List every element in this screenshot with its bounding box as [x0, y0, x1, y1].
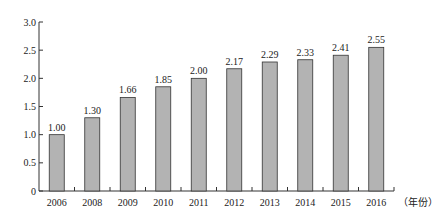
x-tick-label: 2006	[47, 197, 67, 208]
x-tick-label: 2015	[331, 197, 351, 208]
bar-2009	[120, 97, 135, 191]
value-label: 2.17	[226, 56, 244, 67]
x-tick-label: 2016	[366, 197, 386, 208]
y-tick-label: 2.5	[24, 45, 37, 56]
y-tick-label: 1.0	[24, 129, 37, 140]
bar-2010	[156, 87, 171, 191]
x-tick-label: 2010	[153, 197, 173, 208]
y-tick-label: 2.0	[24, 73, 37, 84]
bar-chart: 00.51.01.52.02.53.01.0020061.3020081.662…	[0, 0, 447, 223]
value-label: 2.29	[261, 49, 279, 60]
value-label: 1.00	[48, 122, 66, 133]
value-label: 2.33	[297, 47, 315, 58]
bar-2008	[85, 118, 100, 191]
y-tick-label: 0.5	[24, 157, 37, 168]
value-label: 1.30	[84, 105, 102, 116]
bar-2015	[333, 55, 348, 191]
bar-2016	[369, 47, 384, 191]
bar-2014	[298, 60, 313, 191]
x-tick-label: 2011	[189, 197, 209, 208]
x-tick-label: 2014	[295, 197, 315, 208]
x-tick-label: 2012	[224, 197, 244, 208]
value-label: 2.41	[332, 42, 350, 53]
value-label: 1.85	[155, 74, 173, 85]
x-tick-label: 2013	[260, 197, 280, 208]
x-axis-label: （年份）	[398, 196, 438, 208]
y-tick-label: 3.0	[24, 17, 37, 28]
y-tick-label: 0	[31, 186, 36, 197]
value-label: 1.66	[119, 84, 137, 95]
y-tick-label: 1.5	[24, 101, 37, 112]
value-label: 2.55	[368, 34, 386, 45]
bar-2011	[191, 78, 206, 191]
value-label: 2.00	[190, 65, 208, 76]
bar-2013	[262, 62, 277, 191]
bar-2012	[227, 69, 242, 191]
x-tick-label: 2008	[82, 197, 102, 208]
x-tick-label: 2009	[118, 197, 138, 208]
bar-2006	[49, 135, 64, 191]
